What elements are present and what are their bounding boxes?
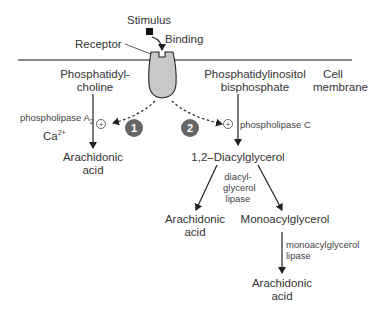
membrane-line-1: Cell [313, 68, 353, 81]
dashed-arrow-2 [172, 101, 222, 124]
product-line-1: Arachidonic [247, 277, 317, 290]
phosphatidylcholine-label: Phosphatidyl- choline [60, 68, 130, 94]
stimulus-label: Stimulus [127, 14, 171, 27]
product-line-2: acid [58, 164, 128, 177]
membrane-line-2: membrane [313, 81, 353, 94]
arrow-dag-to-aa [196, 165, 217, 210]
monoacylglycerol-label: Monoacylglycerol [240, 213, 330, 226]
enzyme-line-1: diacyl- [223, 171, 253, 182]
product-line-1: Arachidonic [160, 213, 230, 226]
cofactor-charge: 2+ [58, 129, 66, 136]
mag-lipase-label: monoacylglycerol lipase [286, 239, 359, 261]
arrow-dag-to-mag [258, 165, 282, 210]
binding-label: Binding [165, 33, 203, 46]
enzyme-line-3: lipase [223, 193, 253, 204]
enzyme-line-2: glycerol [223, 182, 253, 193]
cofactor-name: Ca [43, 130, 58, 142]
svg-text:+: + [99, 121, 103, 128]
substrate-line-1: Phosphatidylinositol [195, 68, 315, 81]
enzyme-line-1: monoacylglycerol [286, 239, 359, 250]
pathway-diagram: 1 2 + + [0, 0, 371, 313]
phospholipase-c-label: phospholipase C [240, 119, 311, 130]
diacylglycerol-label: 1,2–Diacylglycerol [188, 151, 288, 164]
arachidonic-acid-2: Arachidonic acid [160, 213, 230, 239]
svg-text:+: + [226, 121, 230, 128]
receptor-leader [125, 44, 151, 54]
enzyme-name: phospholipase A [20, 112, 90, 123]
substrate-line-2: choline [60, 81, 130, 94]
substrate-line-1: Phosphatidyl- [60, 68, 130, 81]
enzyme-subscript: 2 [90, 118, 94, 125]
arachidonic-acid-1: Arachidonic acid [58, 151, 128, 177]
calcium-label: Ca2+ [43, 126, 66, 143]
phospholipase-a2-label: phospholipase A2 [20, 112, 94, 127]
receptor-label: Receptor [75, 38, 122, 51]
binding-arrow [152, 37, 162, 50]
cell-membrane-label: Cell membrane [313, 68, 353, 94]
stimulus-icon [146, 28, 153, 35]
substrate-line-2: bisphosphate [195, 81, 315, 94]
receptor-icon [149, 52, 176, 98]
product-line-2: acid [247, 290, 317, 303]
svg-text:2: 2 [187, 122, 193, 134]
product-line-2: acid [160, 226, 230, 239]
arachidonic-acid-3: Arachidonic acid [247, 277, 317, 303]
enzyme-line-2: lipase [286, 250, 359, 261]
dag-lipase-label: diacyl- glycerol lipase [223, 171, 253, 204]
svg-text:1: 1 [131, 122, 137, 134]
pip2-label: Phosphatidylinositol bisphosphate [195, 68, 315, 94]
product-line-1: Arachidonic [58, 151, 128, 164]
